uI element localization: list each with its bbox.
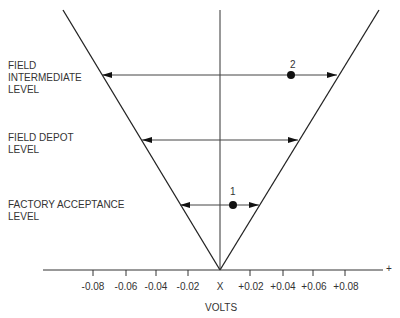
tick-label: +0.06 (301, 281, 327, 292)
axis-plus-label: + (386, 263, 392, 274)
voltage-tolerance-diagram: 1 2 FIELD INTERMEDIATE LEVEL FIELD DEPOT… (0, 0, 400, 318)
tick-label: -0.04 (145, 281, 168, 292)
field-depot-label: FIELD DEPOT LEVEL (8, 132, 76, 155)
x-axis-ticks (93, 270, 345, 276)
factory-acceptance-label: FACTORY ACCEPTANCE LEVEL (8, 199, 127, 222)
tick-label: -0.08 (82, 281, 105, 292)
tick-label: +0.08 (333, 281, 359, 292)
tick-label: +0.02 (238, 281, 264, 292)
measurement-point-2 (287, 71, 295, 79)
point-2-label: 2 (290, 59, 296, 70)
tick-label: -0.06 (115, 281, 138, 292)
field-intermediate-label: FIELD INTERMEDIATE LEVEL (8, 60, 85, 95)
origin-label: X (217, 281, 224, 292)
tick-label: -0.02 (177, 281, 200, 292)
measurement-point-1 (229, 201, 237, 209)
tick-label: +0.04 (270, 281, 296, 292)
axis-title: VOLTS (205, 302, 237, 313)
point-1-label: 1 (230, 186, 236, 197)
